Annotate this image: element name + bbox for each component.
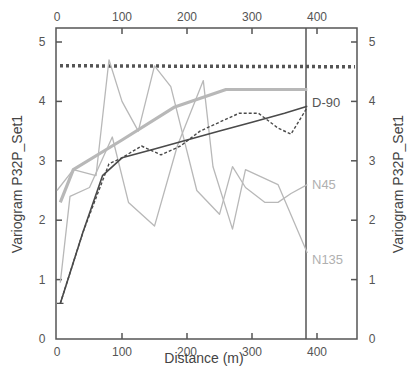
x-tick-label-top: 100 xyxy=(112,10,132,24)
x-tick-label-bottom: 0 xyxy=(54,345,61,359)
x-tick-label-bottom: 300 xyxy=(242,345,262,359)
variogram-chart: 0100200300400 0100200300400 012345 01234… xyxy=(0,0,411,386)
y-axis-title-left: Variogram P32P_Set1 xyxy=(9,115,25,253)
y-axis-right: 012345 xyxy=(351,35,376,346)
x-tick-label-top: 0 xyxy=(54,10,61,24)
y-tick-label-left: 5 xyxy=(39,35,46,49)
y-tick-label-left: 2 xyxy=(39,213,46,227)
x-tick-label-bottom: 100 xyxy=(112,345,132,359)
x-tick-label-top: 300 xyxy=(242,10,262,24)
y-tick-label-left: 4 xyxy=(39,94,46,108)
series-n45-model xyxy=(60,90,307,203)
y-tick-label-right: 0 xyxy=(369,332,376,346)
sill-line xyxy=(60,66,355,67)
series-d-90-model xyxy=(60,106,307,303)
y-tick-label-right: 3 xyxy=(369,154,376,168)
x-axis-top: 0100200300400 xyxy=(54,10,328,34)
label-n45: N45 xyxy=(312,177,336,192)
series-n45-experimental xyxy=(57,60,307,215)
y-axis-left: 012345 xyxy=(39,35,62,346)
label-d90: D-90 xyxy=(312,95,340,110)
y-tick-label-right: 5 xyxy=(369,35,376,49)
label-n135: N135 xyxy=(312,252,343,267)
x-tick-label-top: 200 xyxy=(177,10,197,24)
y-tick-label-right: 2 xyxy=(369,213,376,227)
y-tick-label-right: 4 xyxy=(369,94,376,108)
series-n135-experimental xyxy=(60,81,307,283)
y-tick-label-left: 0 xyxy=(39,332,46,346)
y-tick-label-left: 1 xyxy=(39,273,46,287)
x-tick-label-top: 400 xyxy=(307,10,327,24)
series-group xyxy=(57,60,307,304)
x-axis-title: Distance (m) xyxy=(164,350,243,366)
y-axis-title-right: Variogram P32P_Set1 xyxy=(390,115,406,253)
y-tick-label-right: 1 xyxy=(369,273,376,287)
y-tick-label-left: 3 xyxy=(39,154,46,168)
x-tick-label-bottom: 400 xyxy=(307,345,327,359)
